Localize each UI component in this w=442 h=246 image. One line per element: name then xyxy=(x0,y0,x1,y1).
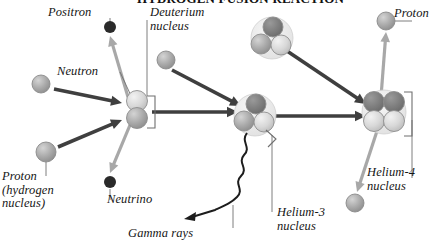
gamma-rays-wave xyxy=(184,133,247,221)
nucleon xyxy=(271,35,291,55)
proton-ul-to-deuterium xyxy=(54,89,122,106)
proton-to-helium3 xyxy=(172,70,241,106)
label-line: Neutron xyxy=(57,65,98,79)
nucleon xyxy=(251,34,271,54)
nucleon xyxy=(384,92,405,113)
label-line: Gamma rays xyxy=(128,227,193,241)
label-line: Proton xyxy=(394,7,429,21)
helium-4-nucleus xyxy=(362,90,406,134)
he4-to-proton-emitted xyxy=(380,32,390,97)
label-positron: Positron xyxy=(48,6,91,20)
label-line: Helium-3 xyxy=(277,206,325,220)
nucleon xyxy=(384,111,405,132)
label-line: nucleus xyxy=(367,180,415,194)
label-line: nucleus xyxy=(277,220,325,234)
label-gamma-rays: Gamma rays xyxy=(128,227,193,241)
helium3-lower-to-he4 xyxy=(271,111,366,121)
nucleon xyxy=(127,108,148,129)
helium3-upper-to-he4 xyxy=(287,51,366,104)
label-neutron: Neutron xyxy=(57,65,98,79)
label-line: nucleus) xyxy=(2,197,54,211)
proton xyxy=(377,12,395,30)
label-deuterium: Deuteriumnucleus xyxy=(150,6,204,33)
label-line: Neutrino xyxy=(107,193,152,207)
label-line: Deuterium xyxy=(150,6,204,20)
nucleon xyxy=(234,111,254,131)
label-line: nucleus xyxy=(150,20,204,34)
nucleon xyxy=(263,17,283,37)
nucleon xyxy=(254,112,274,132)
diagram-graphics-layer xyxy=(0,0,442,246)
proton xyxy=(157,51,175,69)
label-line: Proton xyxy=(2,170,54,184)
label-proton-top-right: Proton xyxy=(394,7,429,21)
label-helium-3: Helium-3nucleus xyxy=(277,206,325,233)
nucleon xyxy=(246,94,266,114)
label-proton-hydrogen: Proton(hydrogennucleus) xyxy=(2,170,54,211)
label-helium-4: Helium-4nucleus xyxy=(367,166,415,193)
label-neutrino: Neutrino xyxy=(107,193,152,207)
fusion-diagram: HYDROGEN FUSION REACTION PositronDeuteri… xyxy=(0,0,442,246)
helium-3-nucleus xyxy=(251,17,293,59)
label-line: (hydrogen xyxy=(2,184,54,198)
helium3-bracket xyxy=(266,130,276,147)
proton xyxy=(32,75,50,93)
label-line: Positron xyxy=(48,6,91,20)
deuterium-to-helium3 xyxy=(152,107,238,117)
deuterium-nucleus xyxy=(127,91,148,129)
deuterium-to-positron xyxy=(108,36,128,97)
proton-ll-to-deuterium xyxy=(58,119,122,147)
nucleon xyxy=(364,111,385,132)
label-line: Helium-4 xyxy=(367,166,415,180)
proton xyxy=(36,142,56,162)
helium-3-nucleus xyxy=(234,94,276,136)
proton xyxy=(346,194,364,212)
positron xyxy=(104,21,116,33)
neutrino xyxy=(104,176,116,188)
nucleon xyxy=(364,92,385,113)
deuterium-to-neutrino xyxy=(109,125,130,173)
